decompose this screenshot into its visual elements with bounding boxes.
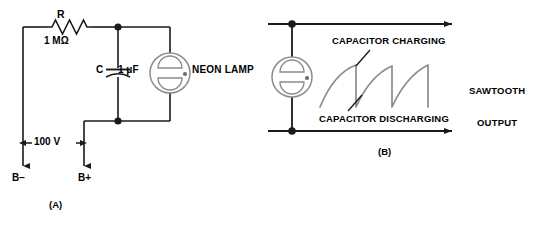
figure-root: R 1 MΩ C 1 μF NEON LAMP 100 V B− B+ (A) … <box>0 0 546 226</box>
sawtooth-output-line2: OUTPUT <box>469 118 525 129</box>
capacitor-charging-label: CAPACITOR CHARGING <box>332 36 446 47</box>
junction-dot-b-bottom <box>288 127 296 135</box>
resistor-label: R <box>57 9 65 21</box>
neon-lamp-gas-dot-b <box>305 76 309 80</box>
neon-lamp-symbol-a <box>150 53 190 93</box>
neon-lamp-label: NEON LAMP <box>192 64 254 75</box>
voltage-label: 100 V <box>34 136 60 147</box>
junction-dot-top <box>114 23 121 30</box>
sawtooth-output-line1: SAWTOOTH <box>469 86 525 97</box>
sawtooth-waveform <box>320 65 428 107</box>
capacitor-discharging-label: CAPACITOR DISCHARGING <box>319 114 449 125</box>
leader-line-discharging <box>348 95 362 111</box>
panel-a-caption: (A) <box>49 200 62 211</box>
circuit-diagram-svg <box>0 0 546 226</box>
resistor-symbol <box>47 20 92 34</box>
panel-b-caption: (B) <box>378 147 391 158</box>
neon-lamp-gas-dot <box>183 72 187 76</box>
capacitor-value-label: 1 μF <box>118 64 139 75</box>
resistor-value-label: 1 MΩ <box>44 35 69 46</box>
terminal-b-minus-label: B− <box>12 172 25 183</box>
junction-dot-bottom <box>114 117 121 124</box>
junction-dot-b-top <box>288 20 296 28</box>
capacitor-label: C <box>96 64 103 75</box>
leader-line-charging <box>356 50 370 66</box>
sawtooth-output-label: SAWTOOTH OUTPUT <box>469 65 525 150</box>
terminal-b-plus-label: B+ <box>78 172 91 183</box>
neon-lamp-symbol-b <box>272 57 312 97</box>
